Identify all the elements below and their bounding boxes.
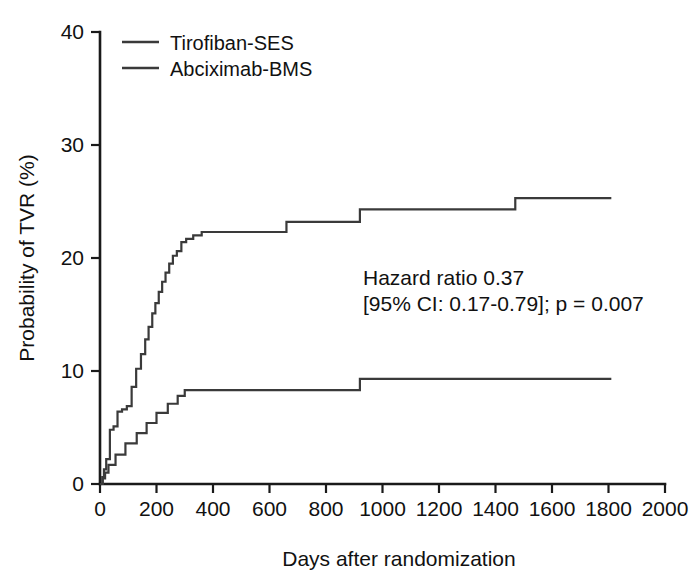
y-tick-label-20: 20: [61, 246, 84, 269]
x-tick-label-0: 0: [94, 497, 106, 520]
y-tick-label-0: 0: [72, 472, 84, 495]
legend: Tirofiban-SES Abciximab-BMS: [122, 32, 312, 80]
y-axis-ticks: [91, 32, 100, 484]
series-line-tirofiban-ses: [100, 379, 611, 484]
confidence-interval-text: [95% CI: 0.17-0.79]; p = 0.007: [363, 292, 644, 315]
x-tick-label-2000: 2000: [642, 497, 689, 520]
x-tick-label-400: 400: [195, 497, 230, 520]
series-group: [100, 198, 611, 484]
x-tick-label-1000: 1000: [359, 497, 406, 520]
x-tick-label-600: 600: [252, 497, 287, 520]
y-axis-title: Probability of TVR (%): [15, 154, 38, 361]
legend-label-abciximab-bms: Abciximab-BMS: [170, 58, 312, 80]
x-tick-label-1600: 1600: [529, 497, 576, 520]
x-axis-ticks: [100, 484, 665, 493]
x-axis-title: Days after randomization: [282, 547, 515, 570]
y-tick-label-30: 30: [61, 133, 84, 156]
hazard-ratio-text: Hazard ratio 0.37: [363, 266, 524, 289]
x-tick-label-1200: 1200: [416, 497, 463, 520]
x-tick-label-800: 800: [308, 497, 343, 520]
y-axis-tick-labels: 010203040: [61, 20, 84, 495]
x-axis-tick-labels: 0200400600800100012001400160018002000: [94, 497, 688, 520]
x-tick-label-200: 200: [139, 497, 174, 520]
y-tick-label-40: 40: [61, 20, 84, 43]
y-tick-label-10: 10: [61, 359, 84, 382]
axes-group: [100, 32, 665, 484]
x-tick-label-1400: 1400: [472, 497, 519, 520]
chart-canvas: 010203040 020040060080010001200140016001…: [0, 0, 698, 575]
kaplan-meier-figure: 010203040 020040060080010001200140016001…: [0, 0, 698, 575]
x-tick-label-1800: 1800: [585, 497, 632, 520]
legend-label-tirofiban-ses: Tirofiban-SES: [170, 32, 294, 54]
statistics-annotation: Hazard ratio 0.37 [95% CI: 0.17-0.79]; p…: [363, 266, 644, 315]
series-line-abciximab-bms: [100, 198, 611, 484]
